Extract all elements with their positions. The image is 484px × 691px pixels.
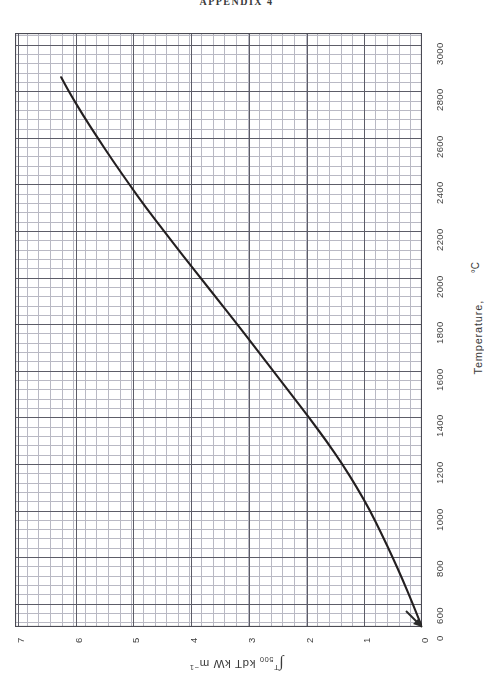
y-tick-2: 2 [304, 637, 315, 643]
x-axis-unit: °C [470, 262, 481, 273]
integral-sign: ∫ [279, 656, 284, 673]
page-title: APPENDIX 4 [0, 0, 473, 6]
y-tick-6: 6 [73, 637, 84, 643]
x-tick-2400: 2400 [434, 182, 445, 205]
y-tick-1: 1 [361, 637, 372, 643]
y-tick-7: 7 [15, 637, 26, 643]
y-tick-4: 4 [188, 637, 199, 643]
x-tick-600: 600 [434, 607, 445, 624]
y-axis-exponent: −1 [189, 663, 199, 672]
x-tick-3000: 3000 [434, 42, 445, 65]
x-tick-1000: 1000 [434, 508, 445, 531]
x-tick-2600: 2600 [434, 135, 445, 158]
x-tick-2000: 2000 [434, 275, 445, 298]
chart-axis-arrows [8, 26, 453, 666]
x-tick-1600: 1600 [434, 368, 445, 391]
x-tick-2800: 2800 [434, 89, 445, 112]
x-tick-2200: 2200 [434, 228, 445, 251]
x-tick-800: 800 [434, 560, 445, 577]
y-tick-5: 5 [130, 637, 141, 643]
origin-label: 0 [434, 635, 445, 641]
integral-upper-limit: T [274, 663, 279, 672]
y-axis-title-rest: kdT kW m [199, 658, 255, 670]
y-tick-0: 0 [419, 637, 430, 643]
x-tick-1800: 1800 [434, 321, 445, 344]
x-tick-1400: 1400 [434, 415, 445, 438]
y-axis-title: ∫T500 kdT kW m−1 [0, 655, 473, 673]
y-tick-3: 3 [246, 637, 257, 643]
integral-lower-limit: 500 [259, 655, 273, 664]
x-axis-title: Temperature, [472, 300, 484, 374]
x-tick-1200: 1200 [434, 461, 445, 484]
